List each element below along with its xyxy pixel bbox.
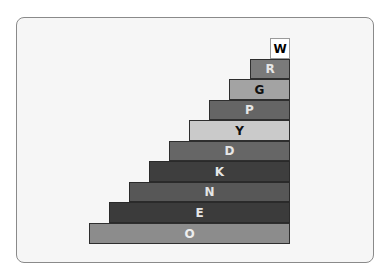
step-y: Y [189, 120, 290, 141]
step-label: E [195, 207, 203, 219]
step-label: P [245, 104, 254, 116]
step-label: D [225, 145, 235, 157]
step-e: E [109, 202, 290, 223]
step-g: G [229, 79, 290, 100]
step-n: N [129, 182, 290, 202]
step-d: D [169, 141, 290, 161]
step-r: R [250, 59, 290, 79]
step-label: W [273, 43, 286, 55]
step-label: R [265, 63, 274, 75]
step-label: O [184, 228, 194, 240]
step-label: G [255, 84, 265, 96]
step-label: K [215, 166, 224, 178]
step-k: K [149, 161, 290, 182]
step-p: P [209, 100, 290, 120]
step-o: O [89, 223, 290, 244]
step-label: N [204, 186, 214, 198]
step-label: Y [235, 125, 244, 137]
step-w: W [270, 38, 290, 59]
